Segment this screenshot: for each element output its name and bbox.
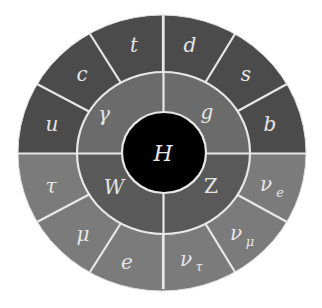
gluon-label: g: [201, 100, 214, 124]
svg-text:e: e: [276, 185, 284, 200]
bottom-quark-label: b: [264, 112, 277, 136]
charm-quark-label: c: [76, 62, 87, 86]
muon-label: μ: [77, 222, 90, 246]
strange-quark-label: s: [241, 62, 251, 86]
svg-text:τ: τ: [195, 259, 203, 274]
electron-label: e: [121, 250, 133, 274]
up-quark-label: u: [46, 112, 59, 136]
higgs-label: H: [152, 141, 173, 166]
top-quark-label: t: [130, 33, 139, 57]
z-boson-label: Z: [204, 174, 218, 198]
down-quark-label: d: [184, 33, 197, 57]
tau-label: τ: [45, 174, 57, 198]
photon-label: γ: [98, 102, 110, 126]
w-boson-label: W: [104, 175, 126, 199]
svg-text:ν: ν: [180, 247, 192, 271]
svg-text:ν: ν: [230, 221, 242, 245]
svg-text:μ: μ: [246, 234, 254, 249]
particle-wheel: H γ g Z W u c t d s b τ μ e ν τ ν μ ν e: [0, 0, 322, 308]
svg-text:ν: ν: [260, 172, 272, 196]
